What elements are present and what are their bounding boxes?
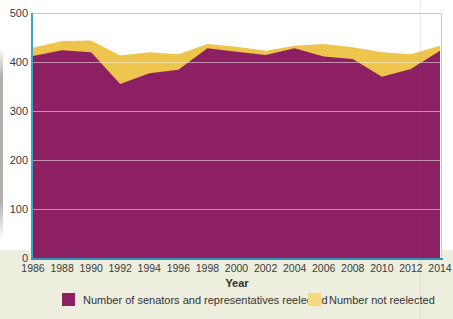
textbook-figure-page: 0100200300400500 19861988199019921994199… [0, 0, 453, 319]
x-axis-tick-label: 2004 [283, 262, 306, 274]
legend-swatch-reelected [62, 293, 75, 306]
legend-label-reelected: Number of senators and representatives r… [83, 294, 328, 306]
page-crease-artifact [420, 0, 421, 319]
x-axis-title: Year [225, 277, 248, 289]
legend-item-reelected: Number of senators and representatives r… [62, 293, 328, 306]
x-axis-tick-label: 2010 [370, 262, 393, 274]
x-axis-tick-label: 2000 [225, 262, 248, 274]
legend-swatch-not-reelected [308, 293, 321, 306]
y-axis-tick-label: 200 [0, 154, 28, 167]
x-axis-tick-label: 2008 [341, 262, 364, 274]
plot-area [32, 13, 442, 258]
x-axis-tick-label: 2014 [428, 262, 451, 274]
y-axis-tick-label: 100 [0, 203, 28, 216]
x-axis-tick-label: 2002 [254, 262, 277, 274]
scan-edge-shadow-artifact [0, 48, 3, 240]
x-axis-tick-label: 1996 [167, 262, 190, 274]
x-axis-tick-label: 1990 [79, 262, 102, 274]
y-axis-tick-label: 300 [0, 105, 28, 118]
x-axis-line [31, 258, 443, 260]
x-axis-tick-label: 2006 [312, 262, 335, 274]
stacked-area-svg [32, 13, 442, 258]
x-axis-tick-label: 1988 [50, 262, 73, 274]
x-axis-tick-label: 1994 [138, 262, 161, 274]
y-axis-line [31, 13, 33, 260]
y-axis-tick-label: 500 [0, 7, 28, 20]
legend: Number of senators and representatives r… [0, 293, 453, 309]
y-axis-tick-label: 400 [0, 56, 28, 69]
x-axis-tick-label: 1992 [109, 262, 132, 274]
x-axis-tick-label: 1998 [196, 262, 219, 274]
legend-item-not-reelected: Number not reelected [308, 293, 435, 306]
x-axis-tick-label: 1986 [21, 262, 44, 274]
area-reelected [33, 48, 440, 258]
legend-label-not-reelected: Number not reelected [329, 294, 435, 306]
